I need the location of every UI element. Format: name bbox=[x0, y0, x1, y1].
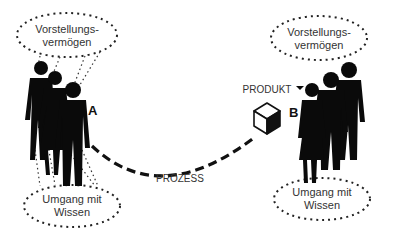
left-top-bubble-line1: Vorstellungs- bbox=[22, 23, 112, 36]
diagram-canvas: Vorstellungs- vermögen Umgang mit Wissen… bbox=[0, 0, 396, 237]
group-b-label: B bbox=[289, 105, 298, 120]
right-bottom-bubble-text: Umgang mit Wissen bbox=[277, 186, 367, 212]
right-people-group-icon bbox=[296, 62, 365, 183]
left-bottom-bubble-line1: Umgang mit bbox=[27, 193, 117, 206]
right-top-bubble-line1: Vorstellungs- bbox=[274, 26, 364, 39]
left-people-group-icon bbox=[25, 61, 90, 186]
group-a-label: A bbox=[88, 103, 97, 118]
left-bottom-bubble-text: Umgang mit Wissen bbox=[27, 193, 117, 219]
right-bottom-bubble-line2: Wissen bbox=[277, 199, 367, 212]
left-top-bubble-line2: vermögen bbox=[22, 36, 112, 49]
cube-icon bbox=[254, 103, 280, 134]
right-bottom-bubble-line1: Umgang mit bbox=[277, 186, 367, 199]
process-label: PROZESS bbox=[140, 172, 220, 185]
left-bottom-bubble-line2: Wissen bbox=[27, 206, 117, 219]
process-curve bbox=[92, 137, 255, 176]
product-label: PRODUKT bbox=[232, 83, 302, 96]
left-top-bubble-text: Vorstellungs- vermögen bbox=[22, 23, 112, 49]
right-top-bubble-line2: vermögen bbox=[274, 39, 364, 52]
right-top-bubble-text: Vorstellungs- vermögen bbox=[274, 26, 364, 52]
